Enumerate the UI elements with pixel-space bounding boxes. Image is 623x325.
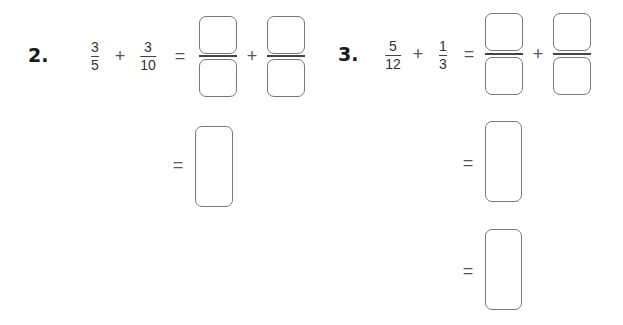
equals-sign: =	[175, 47, 186, 65]
answer-denominator-box-1[interactable]	[485, 57, 523, 95]
numerator: 3	[91, 40, 99, 55]
fraction-a: 3 5	[91, 40, 99, 73]
numerator: 3	[144, 40, 152, 55]
denominator: 5	[91, 58, 99, 73]
answer-numerator-box-2[interactable]	[267, 16, 305, 54]
plus-sign: +	[115, 47, 126, 65]
answer-numerator-box-1[interactable]	[485, 13, 523, 51]
plus-sign: +	[413, 45, 424, 63]
answer-numerator-box-1[interactable]	[199, 16, 237, 54]
equals-sign: =	[173, 156, 184, 174]
equals-sign: =	[464, 45, 475, 63]
fraction-b: 3 10	[140, 40, 156, 73]
answer-fraction-bar-2	[267, 55, 305, 57]
denominator: 12	[385, 57, 401, 72]
result-box-2[interactable]	[485, 229, 522, 310]
denominator: 3	[439, 57, 447, 72]
plus-sign: +	[247, 47, 258, 65]
plus-sign: +	[533, 45, 544, 63]
fraction-a: 5 12	[385, 39, 401, 72]
answer-denominator-box-2[interactable]	[553, 57, 591, 95]
equals-sign: =	[463, 154, 474, 172]
answer-numerator-box-2[interactable]	[553, 13, 591, 51]
numerator: 1	[439, 39, 447, 54]
answer-fraction-bar-1	[485, 53, 523, 55]
denominator: 10	[140, 58, 156, 73]
result-box[interactable]	[195, 126, 233, 207]
problem-number: 3.	[338, 43, 358, 65]
answer-fraction-bar-1	[199, 55, 237, 57]
equals-sign: =	[463, 262, 474, 280]
answer-fraction-bar-2	[553, 53, 591, 55]
numerator: 5	[389, 39, 397, 54]
fraction-b: 1 3	[439, 39, 447, 72]
answer-denominator-box-2[interactable]	[267, 59, 305, 97]
answer-denominator-box-1[interactable]	[199, 59, 237, 97]
result-box-1[interactable]	[485, 121, 522, 202]
problem-number: 2.	[28, 44, 48, 66]
